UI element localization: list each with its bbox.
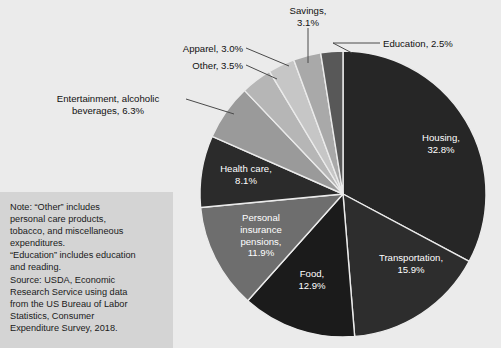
note-line-8: from the US Bureau of Labor — [10, 298, 165, 310]
slice-label-personal-insurance-pensions: Personal insurance pensions, 11.9% — [222, 212, 300, 259]
note-line-2: tobacco, and miscellaneous — [10, 225, 165, 237]
note-line-0: Note: “Other” includes — [10, 201, 165, 213]
note-line-3: expenditures. — [10, 237, 165, 249]
note-line-7: Research Service using data — [10, 286, 165, 298]
slice-label-health-care: Health care, 8.1% — [209, 163, 283, 187]
slice-label-food: Food, 12.9% — [284, 268, 340, 292]
note-line-10: Expenditure Survey, 2018. — [10, 322, 165, 334]
note-line-1: personal care products, — [10, 213, 165, 225]
slice-label-transportation: Transportation, 15.9% — [363, 252, 459, 276]
apparel-leader — [246, 48, 289, 66]
chart-stage: Housing, 32.8%Transportation, 15.9%Food,… — [0, 0, 501, 348]
note-line-6: Source: USDA, Economic — [10, 274, 165, 286]
callout-label-apparel: Apparel, 3.0% — [163, 43, 243, 55]
pie-slices-group — [200, 51, 486, 337]
callout-label-savings: Savings, 3.1% — [277, 5, 339, 28]
note-line-9: Statistics, Consumer — [10, 310, 165, 322]
slice-label-housing: Housing, 32.8% — [402, 132, 480, 156]
note-line-4: “Education” includes education — [10, 249, 165, 261]
callout-label-education: Education, 2.5% — [383, 38, 475, 50]
note-text: Note: “Other” includespersonal care prod… — [10, 201, 165, 334]
callout-label-other: Other, 3.5% — [160, 60, 243, 72]
entertainment-leader — [186, 99, 234, 114]
note-line-5: and reading. — [10, 261, 165, 273]
callout-label-entertainment: Entertainment, alcoholic beverages, 6.3% — [33, 93, 183, 116]
note-panel: Note: “Other” includespersonal care prod… — [0, 192, 173, 348]
